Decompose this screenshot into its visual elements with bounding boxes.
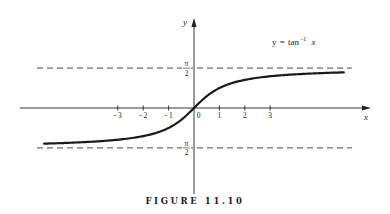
function-label-fn: tan — [288, 37, 299, 47]
y-axis-label: y — [182, 17, 187, 27]
x-tick-label: 3 — [268, 111, 272, 120]
asymptote-label-denominator: 2 — [185, 69, 189, 78]
x-tick-label: 0 — [197, 111, 201, 120]
figure-caption: FIGURE 11.10 — [0, 196, 390, 206]
function-label-x: x — [311, 37, 316, 47]
function-label-sup: -1 — [301, 36, 306, 42]
x-axis-label: x — [363, 112, 368, 122]
function-label-y: y — [272, 37, 277, 47]
x-tick-label: - 2 — [139, 111, 147, 120]
function-label-eq: = — [280, 37, 285, 47]
x-tick-label: - 3 — [114, 111, 122, 120]
x-tick-label: 1 — [218, 111, 222, 120]
y-axis-arrowhead — [191, 18, 196, 27]
asymptote-label-numerator: π — [185, 59, 189, 68]
x-axis-arrowhead — [362, 105, 371, 110]
asymptote-label-numerator: π — [185, 139, 189, 148]
arctan-figure: x y - 3- 2- 10123 π2π2 y = tan -1 x — [0, 0, 390, 214]
function-label: y = tan -1 x — [272, 33, 316, 47]
asymptote-label-denominator: 2 — [185, 148, 189, 157]
x-tick-label: - 1 — [165, 111, 173, 120]
x-tick-label: 2 — [243, 111, 247, 120]
